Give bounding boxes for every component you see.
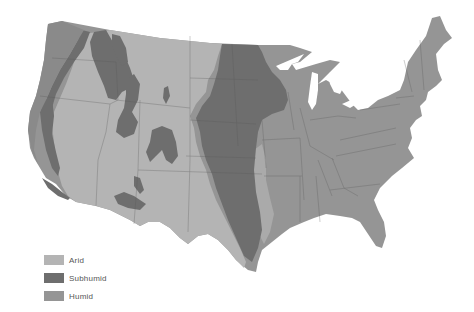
legend-label-subhumid: Subhumid [69,274,107,283]
legend-item-humid: Humid [44,287,107,305]
legend-label-arid: Arid [69,256,84,265]
legend-label-humid: Humid [69,292,93,301]
legend: Arid Subhumid Humid [44,251,107,305]
legend-swatch-humid [44,291,64,301]
legend-item-subhumid: Subhumid [44,269,107,287]
legend-swatch-subhumid [44,273,64,283]
legend-item-arid: Arid [44,251,107,269]
legend-swatch-arid [44,255,64,265]
